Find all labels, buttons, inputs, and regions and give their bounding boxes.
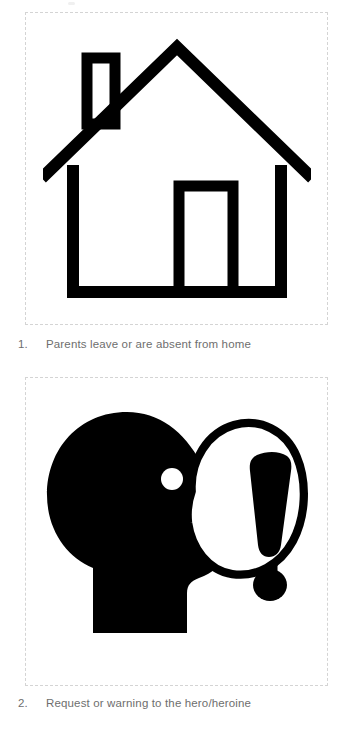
house-icon bbox=[26, 13, 327, 324]
card-caption-text: Parents leave or are absent from home bbox=[46, 338, 344, 350]
card-number: 1. bbox=[0, 338, 46, 350]
card-caption-text: Request or warning to the hero/heroine bbox=[46, 697, 344, 709]
card-caption: 1. Parents leave or are absent from home bbox=[0, 338, 344, 350]
card-caption: 2. Request or warning to the hero/heroin… bbox=[0, 697, 344, 709]
narrative-card[interactable]: 1. Parents leave or are absent from home bbox=[0, 0, 344, 365]
narrative-card[interactable]: 2. Request or warning to the hero/heroin… bbox=[0, 365, 344, 729]
card-frame bbox=[25, 377, 328, 686]
speaking-head-icon bbox=[26, 378, 327, 685]
card-number: 2. bbox=[0, 697, 46, 709]
card-sheet: 1. Parents leave or are absent from home bbox=[0, 0, 344, 729]
card-frame bbox=[25, 12, 328, 325]
eye bbox=[161, 468, 183, 490]
